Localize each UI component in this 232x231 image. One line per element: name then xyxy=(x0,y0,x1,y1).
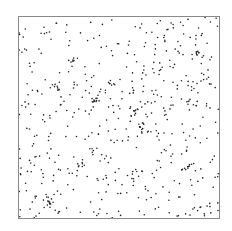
data-point xyxy=(94,100,96,102)
data-point xyxy=(91,148,93,150)
data-point xyxy=(170,105,172,107)
data-point xyxy=(43,199,45,201)
data-point xyxy=(56,86,58,88)
data-point xyxy=(43,27,45,29)
data-point xyxy=(163,107,165,109)
data-point xyxy=(172,153,174,155)
data-point xyxy=(132,92,134,94)
data-point xyxy=(115,180,117,182)
data-point xyxy=(37,90,39,92)
data-point xyxy=(215,17,217,19)
data-point xyxy=(177,88,179,90)
data-point xyxy=(49,115,51,117)
data-point xyxy=(145,74,147,76)
data-point xyxy=(71,66,73,68)
data-point xyxy=(155,193,157,195)
data-point xyxy=(21,51,23,53)
data-point xyxy=(158,160,160,162)
data-point xyxy=(131,81,133,83)
data-point xyxy=(26,49,28,51)
data-point xyxy=(127,175,129,177)
data-point xyxy=(208,77,210,79)
data-point xyxy=(160,20,162,22)
data-point xyxy=(25,106,27,108)
data-point xyxy=(209,107,211,109)
data-point xyxy=(68,45,70,47)
data-point xyxy=(108,82,110,84)
data-point xyxy=(192,128,194,130)
data-point xyxy=(43,207,45,209)
data-point xyxy=(206,138,208,140)
data-point xyxy=(177,41,179,43)
data-point xyxy=(193,88,195,90)
data-point xyxy=(150,131,152,133)
data-point xyxy=(68,172,70,174)
data-point xyxy=(179,183,181,185)
data-point xyxy=(105,175,107,177)
data-point xyxy=(127,139,129,141)
data-point xyxy=(170,144,172,146)
data-point xyxy=(40,33,42,35)
data-point xyxy=(154,101,156,103)
data-point xyxy=(195,38,197,40)
data-point xyxy=(42,119,44,121)
data-point xyxy=(102,24,104,26)
data-point xyxy=(93,150,95,152)
data-point xyxy=(96,178,98,180)
data-point xyxy=(96,215,98,217)
data-point xyxy=(164,35,166,37)
data-point xyxy=(172,67,174,69)
data-point xyxy=(186,101,188,103)
data-point xyxy=(138,175,140,177)
data-point xyxy=(147,101,149,103)
data-point xyxy=(144,46,146,48)
data-point xyxy=(44,33,46,35)
data-point xyxy=(65,32,67,34)
data-point xyxy=(38,48,40,50)
data-point xyxy=(51,198,53,200)
data-point xyxy=(181,123,183,125)
data-point xyxy=(67,168,69,170)
data-point xyxy=(47,204,49,206)
data-point xyxy=(59,211,61,213)
data-point xyxy=(47,152,49,154)
data-point xyxy=(192,81,194,83)
data-point xyxy=(48,136,50,138)
data-point xyxy=(49,203,51,205)
data-point xyxy=(189,109,191,111)
data-point xyxy=(41,183,43,185)
data-point xyxy=(163,80,165,82)
data-point xyxy=(217,108,219,110)
data-point xyxy=(118,118,120,120)
data-point xyxy=(29,208,31,210)
scatter-plot-area xyxy=(19,17,219,218)
data-point xyxy=(190,179,192,181)
data-point xyxy=(128,136,130,138)
data-point xyxy=(112,55,114,57)
data-point xyxy=(139,126,141,128)
data-point xyxy=(141,131,143,133)
data-point xyxy=(154,44,156,46)
data-point xyxy=(145,188,147,190)
data-point xyxy=(203,79,205,81)
data-point xyxy=(59,82,61,84)
data-point xyxy=(204,215,206,217)
data-point xyxy=(20,209,22,211)
data-point xyxy=(177,51,179,53)
data-point xyxy=(32,90,34,92)
data-point xyxy=(147,190,149,192)
data-point xyxy=(141,129,143,131)
data-point xyxy=(33,62,35,64)
data-point xyxy=(81,162,83,164)
data-point xyxy=(180,45,182,47)
data-point xyxy=(153,93,155,95)
data-point xyxy=(132,185,134,187)
data-point xyxy=(214,176,216,178)
data-point xyxy=(156,135,158,137)
data-point xyxy=(49,207,51,209)
data-point xyxy=(41,169,43,171)
data-point xyxy=(113,83,115,85)
data-point xyxy=(54,161,56,163)
data-point xyxy=(155,48,157,50)
data-point xyxy=(27,171,29,173)
